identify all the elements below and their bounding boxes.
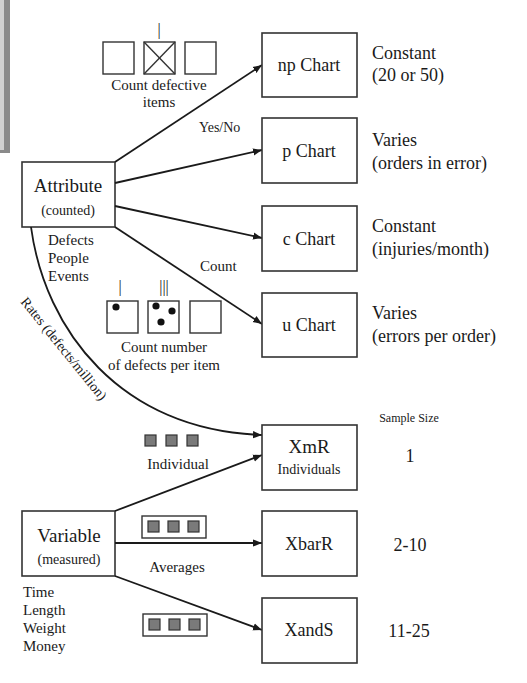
count-defective-label: Count defective — [111, 77, 207, 93]
variable-subtitle: (measured) — [38, 552, 101, 568]
np-chart-box: np Chart — [262, 33, 357, 97]
xmr-chart-box: XmR Individuals — [262, 425, 357, 490]
averages-label: Averages — [149, 559, 205, 575]
sample-size-header: Sample Size — [379, 411, 439, 425]
p-chart-note: Varies — [372, 130, 417, 150]
c-chart-note-2: (injuries/month) — [372, 239, 489, 260]
count-number-label-2: of defects per item — [108, 357, 220, 373]
np-chart-label: np Chart — [278, 55, 341, 75]
rates-label: Rates (defects/million) — [17, 294, 110, 404]
xands-sample-size: 11-25 — [388, 621, 429, 641]
tally-one-label: | — [118, 278, 121, 296]
u-chart-note: Varies — [372, 303, 417, 323]
c-chart-box: c Chart — [262, 206, 357, 271]
arrow-to-p-chart — [115, 150, 262, 183]
xbarr-sample-size: 2-10 — [394, 535, 427, 555]
control-chart-selection-diagram: | Count defective items Attribute (count… — [0, 0, 527, 683]
xmr-chart-label: XmR — [288, 436, 330, 457]
defects-per-item-icon — [107, 301, 221, 333]
p-chart-label: p Chart — [282, 141, 336, 161]
yes-no-label: Yes/No — [199, 120, 240, 135]
variable-title: Variable — [37, 525, 100, 546]
variable-example: Weight — [23, 620, 67, 636]
individual-samples-icon — [145, 435, 198, 446]
xbarr-chart-label: XbarR — [285, 534, 333, 554]
tally-three-label: ||| — [159, 278, 169, 296]
attribute-example: Defects — [48, 232, 94, 248]
p-chart-box: p Chart — [262, 118, 357, 183]
u-chart-note-2: (errors per order) — [372, 326, 496, 347]
attribute-example: People — [48, 250, 89, 266]
xmr-chart-sublabel: Individuals — [278, 462, 341, 477]
count-label: Count — [200, 258, 238, 274]
np-chart-note: Constant — [372, 43, 436, 63]
u-chart-box: u Chart — [262, 293, 357, 357]
subgroup-samples-icon — [143, 614, 207, 636]
tally-one-label: | — [157, 21, 160, 39]
xbarr-chart-box: XbarR — [262, 511, 357, 576]
u-chart-label: u Chart — [282, 315, 336, 335]
c-chart-label: c Chart — [283, 229, 335, 249]
attribute-title: Attribute — [34, 175, 103, 196]
variable-example: Money — [23, 638, 66, 654]
variable-example: Time — [23, 584, 54, 600]
xands-chart-box: XandS — [262, 598, 357, 663]
c-chart-note: Constant — [372, 216, 436, 236]
variable-example: Length — [23, 602, 66, 618]
xands-chart-label: XandS — [285, 620, 334, 640]
arrow-to-c-chart — [115, 206, 262, 238]
averages-samples-icon — [142, 516, 206, 538]
individual-label: Individual — [147, 456, 209, 472]
attribute-box: Attribute (counted) — [22, 162, 115, 227]
count-number-label: Count number — [121, 339, 207, 355]
attribute-subtitle: (counted) — [41, 203, 95, 219]
p-chart-note-2: (orders in error) — [372, 153, 487, 174]
gray-frame-edge — [0, 0, 10, 153]
variable-box: Variable (measured) — [22, 511, 115, 576]
xmr-sample-size: 1 — [406, 446, 415, 466]
np-chart-note-2: (20 or 50) — [372, 65, 444, 86]
defective-items-icon — [103, 42, 216, 74]
attribute-example: Events — [48, 268, 89, 284]
count-defective-label-2: items — [143, 94, 176, 110]
